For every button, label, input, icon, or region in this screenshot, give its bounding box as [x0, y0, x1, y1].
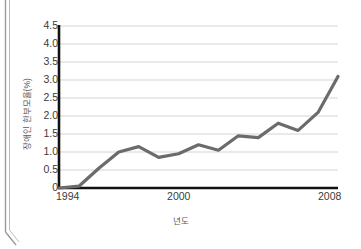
y-tick-label: 4.0: [30, 38, 58, 49]
y-tick-label: 1.0: [30, 146, 58, 157]
y-tick-label: 3.5: [30, 56, 58, 67]
y-tick-label: 1.5: [30, 128, 58, 139]
y-tick-label: 4.5: [30, 20, 58, 31]
x-axis-title: 년도: [0, 214, 361, 226]
y-tick-label: 3.0: [30, 74, 58, 85]
x-tick-label: 2000: [167, 191, 190, 202]
line-chart-figure: 4.54.03.53.02.52.01.51.00.50 19942000200…: [0, 0, 361, 249]
data-series-line: [59, 76, 338, 188]
x-tick-label: 2008: [318, 191, 341, 202]
y-tick-label: 2.5: [30, 92, 58, 103]
y-axis-tick-labels: 4.54.03.53.02.52.01.51.00.50: [28, 0, 58, 249]
y-tick-label: 0: [30, 182, 58, 193]
gridlines: [59, 26, 338, 170]
y-tick-label: 2.0: [30, 110, 58, 121]
x-tick-label: 1994: [56, 191, 79, 202]
y-tick-label: 0.5: [30, 164, 58, 175]
y-axis-title: 장애인 한부모율(%): [20, 44, 32, 184]
